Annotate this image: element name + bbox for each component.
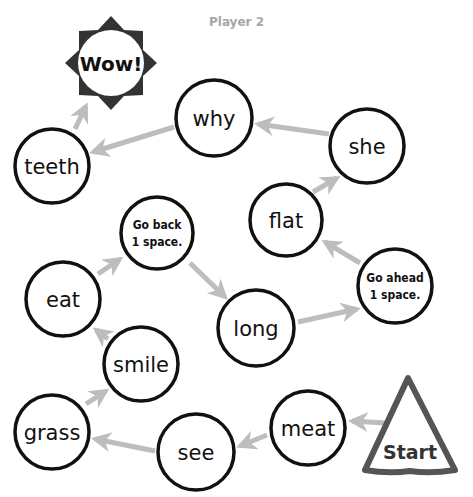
space-label-line-1: Go back <box>133 218 182 232</box>
space-eat[interactable]: eat <box>26 262 100 336</box>
space-label: why <box>193 107 236 131</box>
space-label-line-2: 1 space. <box>132 235 183 249</box>
space-label-line-1: Go ahead <box>366 271 423 285</box>
space-start[interactable]: Start <box>365 378 455 472</box>
space-label: smile <box>113 353 169 377</box>
space-label: grass <box>24 421 81 445</box>
space-label: eat <box>46 288 80 312</box>
arrow-see-to-grass <box>95 439 155 451</box>
arrow-start-to-meat <box>352 421 385 423</box>
arrow-goahead-to-flat <box>325 242 360 263</box>
arrow-grass-to-smile <box>86 391 106 404</box>
arrow-eat-to-goback <box>98 259 120 274</box>
space-label: Start <box>383 441 437 463</box>
space-label: teeth <box>24 155 80 179</box>
space-teeth[interactable]: teeth <box>15 129 89 203</box>
space-label: meat <box>281 417 335 441</box>
game-board: Player 2 Wow! <box>0 0 473 497</box>
space-go-ahead[interactable]: Go ahead 1 space. <box>358 249 432 323</box>
space-meat[interactable]: meat <box>271 391 345 465</box>
space-wow[interactable]: Wow! <box>65 16 157 110</box>
space-label: Wow! <box>80 52 143 76</box>
arrow-why-to-teeth <box>93 127 174 152</box>
space-label-line-2: 1 space. <box>370 288 421 302</box>
arrow-long-to-goahead <box>298 309 357 322</box>
space-long[interactable]: long <box>218 290 294 366</box>
space-go-back[interactable]: Go back 1 space. <box>121 197 193 269</box>
board-canvas: Wow! why teeth she flat Go back 1 space.… <box>0 0 473 497</box>
space-label: see <box>178 441 215 465</box>
space-she[interactable]: she <box>330 109 404 183</box>
arrow-she-to-why <box>258 124 329 134</box>
arrow-flat-to-she <box>313 178 337 192</box>
space-label: long <box>233 317 278 341</box>
space-label: flat <box>269 209 303 233</box>
space-flat[interactable]: flat <box>250 184 322 256</box>
arrow-meat-to-see <box>240 435 267 446</box>
space-grass[interactable]: grass <box>15 395 89 469</box>
space-why[interactable]: why <box>176 80 252 156</box>
arrow-smile-to-eat <box>96 330 108 339</box>
space-label: she <box>348 135 385 159</box>
arrow-goback-to-long <box>190 263 225 297</box>
arrow-teeth-to-wow <box>75 106 86 129</box>
space-see[interactable]: see <box>158 414 234 490</box>
space-smile[interactable]: smile <box>104 327 178 401</box>
